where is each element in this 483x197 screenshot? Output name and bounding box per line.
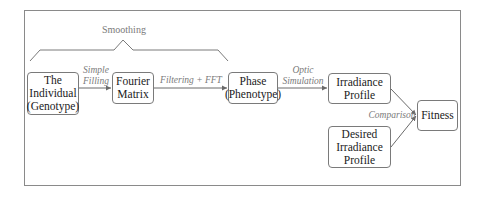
node-text: Individual [29,87,76,100]
node-text: (Genotype) [27,100,79,113]
node-text: The [44,74,62,87]
edge-label-text: Simulation [280,76,326,87]
node-text: Fourier [116,75,150,88]
edge-label-simple-filling: Simple Filling [80,65,112,87]
node-fourier-matrix: Fourier Matrix [112,72,154,104]
node-text: Irradiance [336,76,383,89]
edge-label-text: Filling [80,76,112,87]
edge-label-comparison: Comparison [367,110,417,121]
node-text: (Phenotype) [225,88,281,101]
node-text: Phase [240,75,267,88]
smoothing-brace [30,40,228,61]
node-text: Desired [342,128,378,141]
node-text: Fitness [421,109,454,122]
node-fitness: Fitness [417,100,458,131]
node-text: Profile [344,154,375,167]
edge-label-optic-simulation: Optic Simulation [280,65,326,87]
node-individual: The Individual (Genotype) [27,72,79,115]
edge-label-text: Simple [80,65,112,76]
node-phase: Phase (Phenotype) [228,72,278,104]
edge-label-text: Optic [280,65,326,76]
node-text: Irradiance [336,141,383,154]
node-text: Matrix [117,88,148,101]
node-text: Profile [344,89,375,102]
node-desired-irradiance-profile: Desired Irradiance Profile [328,126,391,168]
smoothing-label: Smoothing [102,24,146,35]
edge-label-filtering-fft: Filtering + FFT [158,75,224,86]
node-irradiance-profile: Irradiance Profile [328,73,391,104]
